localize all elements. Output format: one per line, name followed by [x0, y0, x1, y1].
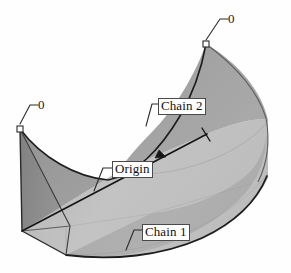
chain2-label: Chain 2 [158, 98, 206, 115]
surface-diagram-figure: Chain 2 Origin Chain 1 0 0 [0, 0, 291, 273]
chain2-end-marker-icon [203, 41, 209, 47]
zero-left-leader-line [20, 105, 38, 124]
origin-label: Origin [112, 161, 153, 178]
zero-label-left: 0 [38, 98, 45, 111]
chain1-label: Chain 1 [142, 224, 190, 241]
zero-right-leader-line [206, 19, 228, 40]
chain2-start-marker-icon [17, 126, 23, 132]
zero-label-right: 0 [228, 12, 235, 25]
